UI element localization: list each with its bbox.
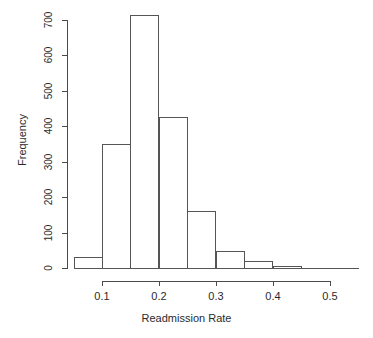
histogram-bar [330,268,359,269]
y-axis-tick-label-500: 500 [38,85,60,97]
y-axis-line [67,20,68,269]
x-axis-tick-0.5 [330,281,331,286]
histogram-bar [187,211,216,269]
y-axis-tick-label-text: 300 [44,154,54,171]
y-axis-tick-label-text: 0 [44,265,54,271]
y-axis-tick-0 [62,268,68,269]
x-axis-tick-label-0.5: 0.5 [310,290,350,302]
y-axis-tick-label-text: 100 [44,225,54,242]
x-axis-tick-label-0.1: 0.1 [82,290,122,302]
plot-area: 0 100 200 300 400 500 600 700 0.1 0.2 0.… [0,0,373,338]
y-axis-tick-300 [62,162,68,163]
x-axis-tick-0.1 [102,281,103,286]
y-axis-tick-label-100: 100 [38,227,60,239]
x-axis-tick-0.3 [216,281,217,286]
x-axis-tick-0.4 [273,281,274,286]
histogram-bar [130,15,159,269]
y-axis-tick-label-text: 500 [44,83,54,100]
y-axis-tick-100 [62,233,68,234]
histogram-bar [159,117,188,269]
y-axis-tick-label-text: 600 [44,47,54,64]
y-axis-tick-label-400: 400 [38,120,60,132]
y-axis-tick-500 [62,91,68,92]
y-axis-tick-200 [62,197,68,198]
y-axis-tick-label-text: 200 [44,189,54,206]
y-axis-tick-label-text: 400 [44,118,54,135]
histogram-chart: 0 100 200 300 400 500 600 700 0.1 0.2 0.… [0,0,373,338]
x-axis-tick-label-0.4: 0.4 [253,290,293,302]
histogram-bar [102,144,131,269]
histogram-bar [216,251,245,269]
x-axis-tick-0.2 [159,281,160,286]
y-axis-tick-label-text: 700 [44,12,54,29]
y-axis-tick-label-200: 200 [38,191,60,203]
y-axis-tick-700 [62,20,68,21]
y-axis-tick-label-700: 700 [38,14,60,26]
histogram-bar [244,261,273,269]
x-axis-tick-label-0.2: 0.2 [139,290,179,302]
y-axis-tick-label-0: 0 [38,262,60,274]
x-axis-title: Readmission Rate [0,312,373,324]
histogram-bar [301,268,330,269]
y-axis-tick-label-600: 600 [38,49,60,61]
histogram-bar [74,257,103,269]
y-axis-tick-label-300: 300 [38,156,60,168]
y-axis-tick-400 [62,126,68,127]
x-axis-tick-label-0.3: 0.3 [196,290,236,302]
y-axis-tick-600 [62,55,68,56]
histogram-bar [273,266,302,269]
y-axis-title: Frequency [16,80,28,200]
